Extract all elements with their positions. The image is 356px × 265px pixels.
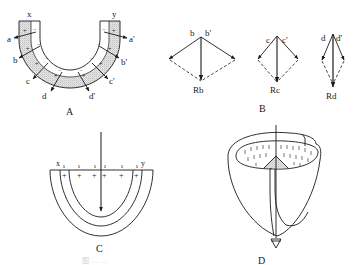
label-d-prime: d'	[89, 91, 96, 101]
label-c-prime: c'	[282, 35, 288, 45]
panel-b: b b' Rb c c' Rd Rc d d' Rd B	[169, 28, 344, 114]
panel-a: +− +− +− +− +− +− +− +− x y a b c d	[7, 9, 135, 117]
label-x: x	[56, 159, 60, 168]
svg-text:−: −	[102, 26, 106, 32]
svg-text:ı: ı	[136, 162, 138, 170]
svg-text:−: −	[58, 67, 62, 73]
label-c: c	[266, 35, 270, 45]
label-d: d	[321, 33, 326, 43]
panel-label-a: A	[66, 106, 74, 117]
svg-text:+: +	[77, 171, 82, 180]
svg-text:ı: ı	[121, 162, 123, 170]
svg-text:+: +	[119, 171, 124, 180]
label-b: b	[190, 28, 195, 38]
panel-c	[50, 132, 153, 236]
figure-caption: 图 … …	[82, 257, 107, 265]
label-rd: Rd	[326, 91, 337, 101]
label-y: y	[112, 9, 117, 19]
panel-d	[228, 125, 321, 248]
svg-text:+: +	[102, 171, 107, 180]
svg-text:ı: ı	[104, 162, 106, 170]
label-rc: Rc	[270, 85, 280, 95]
label-b-prime: b'	[205, 28, 212, 38]
svg-text:ı: ı	[94, 162, 96, 170]
vector-group-rc: c c' Rd Rc	[258, 35, 298, 95]
svg-text:ı: ı	[63, 162, 65, 170]
svg-text:ı: ı	[78, 162, 80, 170]
label-b: b	[13, 55, 18, 65]
label-c-prime: c'	[109, 76, 115, 86]
label-x: x	[27, 9, 32, 19]
label-c: c	[26, 76, 30, 86]
panel-label-b: B	[259, 103, 266, 114]
label-rb: Rb	[193, 85, 204, 95]
cardiac-vector-figure: +− +− +− +− +− +− +− +− x y a b c d	[0, 0, 356, 265]
label-y: y	[141, 159, 145, 168]
vector-group-rb: b b' Rb	[169, 28, 235, 95]
label-d: d	[42, 91, 47, 101]
panel-label-c: C	[96, 243, 103, 254]
svg-text:+: +	[92, 171, 97, 180]
label-b-prime: b'	[121, 57, 128, 67]
vector-group-rd: d d' Rd	[321, 33, 344, 101]
svg-text:+: +	[134, 171, 139, 180]
svg-text:+: +	[62, 171, 67, 180]
label-d-prime: d'	[336, 33, 343, 43]
panel-label-d: D	[258, 255, 265, 265]
label-a: a	[7, 34, 11, 44]
label-a-prime: a'	[129, 34, 135, 44]
svg-text:−: −	[33, 26, 37, 32]
